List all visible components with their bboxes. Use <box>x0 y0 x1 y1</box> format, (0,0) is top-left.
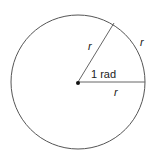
label-radius-upper: r <box>88 40 93 52</box>
center-point <box>76 81 80 85</box>
radian-diagram: r r 1 rad r <box>0 0 165 165</box>
label-arc: r <box>140 36 145 48</box>
label-radius-lower: r <box>114 86 119 98</box>
label-angle: 1 rad <box>91 68 116 80</box>
